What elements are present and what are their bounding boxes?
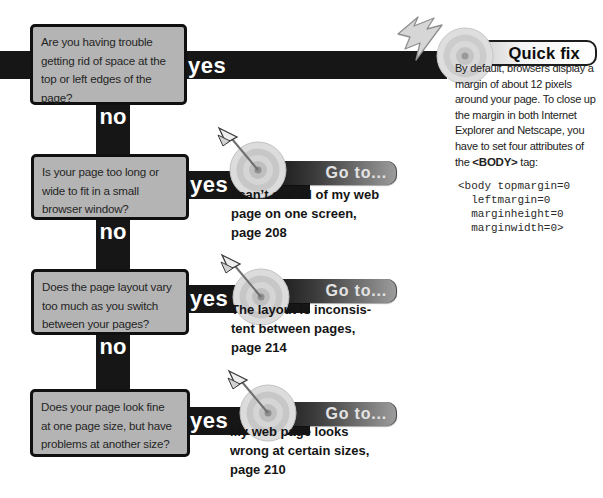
flowchart-page: Go to... Go to... Go to... Are you havin… (0, 0, 603, 498)
no-label-3: no (96, 334, 130, 360)
question-box-1: Are you having trouble getting rid of sp… (30, 24, 187, 105)
quick-fix-code-snippet: <body topmargin=0 leftmargin=0 marginhei… (458, 179, 570, 235)
quick-fix-body-tail: tag: (520, 156, 537, 168)
question-text: Are you having trouble getting rid of sp… (41, 33, 184, 107)
quick-fix-body-text: By default, browsers display a margin of… (455, 62, 596, 168)
question-box-4: Does your page look fine at one page siz… (30, 389, 190, 457)
question-text: Does the page layout vary too much as yo… (42, 278, 186, 334)
goto-text-1: I can’t see all of my web page on one sc… (231, 185, 379, 242)
question-box-3: Does the page layout vary too much as yo… (31, 269, 189, 335)
question-box-2: Is your page too long or wide to fit in … (31, 154, 189, 220)
goto-text-3: My web page looks wrong at certain sizes… (230, 422, 369, 479)
yes-label-4: yes (190, 407, 228, 435)
no-label-2: no (96, 219, 130, 245)
question-text: Does your page look fine at one page siz… (41, 398, 187, 454)
goto-header: Go to... (325, 161, 397, 185)
goto-text-2: The layout is inconsis- tent between pag… (231, 300, 371, 357)
body-tag-keyword: <BODY> (472, 156, 517, 168)
yes-label-1: yes (188, 52, 226, 80)
no-label-1: no (96, 104, 130, 130)
quick-fix-body: By default, browsers display a margin of… (455, 61, 596, 170)
lightning-bolt-icon (392, 14, 452, 64)
question-text: Is your page too long or wide to fit in … (42, 163, 186, 219)
